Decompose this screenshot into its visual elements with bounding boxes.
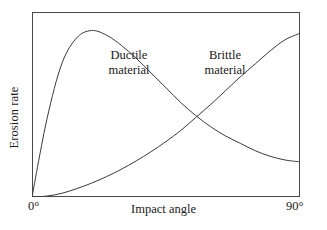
ductile-material-curve (32, 30, 300, 197)
brittle-material-label: Brittle material (195, 48, 255, 78)
ductile-material-label-line1: Ductile (98, 48, 160, 63)
x-axis-tick-min: 0° (28, 199, 39, 214)
y-axis-title-text: Erosion rate (8, 86, 23, 148)
brittle-material-curve (32, 33, 300, 197)
curve-layer (32, 12, 300, 197)
erosion-rate-chart: Erosion rate Impact angle 0° 90° Ductile… (0, 0, 327, 230)
x-axis-tick-max: 90° (286, 199, 304, 214)
y-axis-title: Erosion rate (4, 62, 26, 172)
ductile-material-label-line2: material (98, 63, 160, 78)
x-axis-title: Impact angle (0, 202, 327, 217)
brittle-material-label-line2: material (195, 63, 255, 78)
ductile-material-label: Ductile material (98, 48, 160, 78)
brittle-material-label-line1: Brittle (195, 48, 255, 63)
